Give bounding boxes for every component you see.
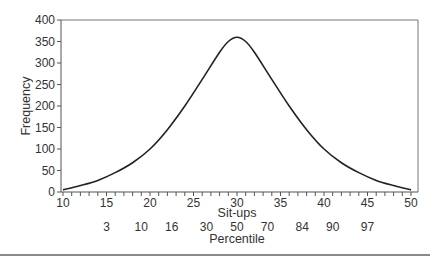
x-tick-label: 10: [56, 196, 70, 210]
y-tick-label: 150: [35, 121, 55, 135]
percentile-tick-label: 10: [135, 220, 149, 234]
x-axis-title: Sit-ups: [218, 206, 257, 220]
percentile-axis-title: Percentile: [209, 232, 265, 246]
bottom-rule: [0, 254, 430, 256]
x-tick-label: 15: [100, 196, 114, 210]
y-tick-label: 350: [35, 35, 55, 49]
x-tick-label: 50: [404, 196, 418, 210]
y-axis-title: Frequency: [19, 76, 33, 136]
x-tick-label: 40: [317, 196, 331, 210]
percentile-tick-label: 97: [361, 220, 375, 234]
percentile-tick-label: 3: [103, 220, 110, 234]
y-tick-label: 200: [35, 99, 55, 113]
frequency-curve: [63, 37, 411, 190]
percentile-tick-label: 90: [326, 220, 340, 234]
y-tick-label: 400: [35, 13, 55, 27]
x-tick-label: 35: [274, 196, 288, 210]
x-tick-label: 20: [143, 196, 157, 210]
y-tick-label: 100: [35, 142, 55, 156]
frequency-chart: 050100150200250300350400 101520253035404…: [0, 0, 435, 262]
y-tick-label: 0: [48, 185, 55, 199]
y-tick-label: 250: [35, 78, 55, 92]
x-tick-label: 45: [361, 196, 375, 210]
y-tick-labels: 050100150200250300350400: [35, 13, 55, 199]
y-tick-label: 50: [42, 164, 56, 178]
x-tick-label: 25: [187, 196, 201, 210]
y-ticks: [57, 20, 61, 192]
percentile-tick-label: 16: [165, 220, 179, 234]
y-tick-label: 300: [35, 56, 55, 70]
percentile-tick-label: 84: [296, 220, 310, 234]
